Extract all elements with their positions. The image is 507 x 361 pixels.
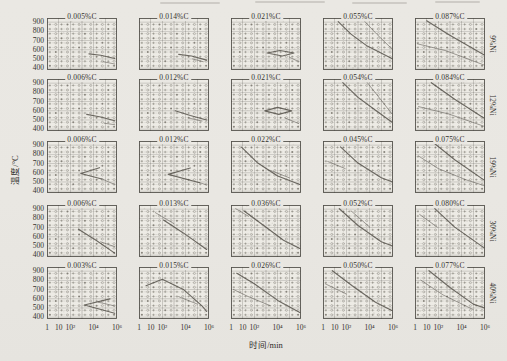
- carbon-content-label: 0.012%C: [157, 74, 191, 82]
- ni-row-label: 19%Ni: [488, 156, 497, 177]
- subplot-canvas: [415, 141, 485, 193]
- subplot-r3-c2: 0.012%C: [139, 141, 209, 193]
- subplot-r3-c5: 0.075%C: [415, 141, 485, 193]
- subplot-canvas: [231, 205, 301, 257]
- y-tick-label: 500: [22, 178, 44, 186]
- carbon-content-label: 0.006%C: [65, 136, 99, 144]
- x-tick-label: 10⁶: [296, 323, 306, 332]
- x-axis-label: 时间/min: [249, 338, 283, 350]
- subplot-canvas: [415, 79, 485, 131]
- x-tick-label: 1: [413, 323, 417, 332]
- x-tick-label: 1: [137, 323, 141, 332]
- y-tick-label: 600: [22, 169, 44, 177]
- subplot-canvas: [323, 18, 393, 70]
- plots-grid: 9008007006005004009%Ni0.005%C0.014%C0.02…: [0, 0, 507, 361]
- y-tick-label: 900: [22, 141, 44, 149]
- y-tick-label: 900: [22, 205, 44, 213]
- y-tick-label: 700: [22, 98, 44, 106]
- carbon-content-label: 0.022%C: [249, 136, 283, 144]
- y-tick-label: 900: [22, 18, 44, 26]
- y-axis-label: 温度/°C: [8, 155, 20, 184]
- subplot-r5-c3: 0.026%C: [231, 267, 301, 319]
- carbon-content-label: 0.075%C: [433, 136, 467, 144]
- subplot-r2-c5: 0.084%C: [415, 79, 485, 131]
- x-tick-label: 10²: [433, 323, 443, 332]
- carbon-content-label: 0.055%C: [341, 13, 375, 21]
- subplot-canvas: [47, 205, 117, 257]
- y-tick-label: 600: [22, 46, 44, 54]
- x-tick-label: 10⁴: [457, 323, 467, 332]
- subplot-canvas: [47, 79, 117, 131]
- subplot-canvas: [47, 267, 117, 319]
- subplot-r1-c4: 0.055%C: [323, 18, 393, 70]
- carbon-content-label: 0.005%C: [65, 13, 99, 21]
- y-tick-label: 800: [22, 27, 44, 35]
- x-tick-label: 10⁶: [388, 323, 398, 332]
- carbon-content-label: 0.012%C: [157, 136, 191, 144]
- y-tick-label: 800: [22, 276, 44, 284]
- subplot-canvas: [323, 141, 393, 193]
- subplot-r4-c1: 0.006%C: [47, 205, 117, 257]
- subplot-r5-c1: 0.003%C: [47, 267, 117, 319]
- subplot-r4-c2: 0.013%C: [139, 205, 209, 257]
- subplot-r3-c4: 0.045%C: [323, 141, 393, 193]
- subplot-r1-c5: 0.087%C: [415, 18, 485, 70]
- subplot-canvas: [323, 79, 393, 131]
- subplot-canvas: [139, 141, 209, 193]
- x-tick-label: 10⁶: [112, 323, 122, 332]
- subplot-canvas: [139, 267, 209, 319]
- y-tick-label: 500: [22, 116, 44, 124]
- subplot-canvas: [139, 18, 209, 70]
- subplot-r4-c5: 0.080%C: [415, 205, 485, 257]
- x-tick-label: 10: [239, 323, 247, 332]
- y-tick-label: 900: [22, 267, 44, 275]
- carbon-content-label: 0.014%C: [157, 13, 191, 21]
- x-tick-label: 10⁴: [89, 323, 99, 332]
- x-tick-label: 10⁶: [204, 323, 214, 332]
- y-tick-label: 700: [22, 37, 44, 45]
- x-tick-label: 10²: [157, 323, 167, 332]
- carbon-content-label: 0.006%C: [65, 200, 99, 208]
- carbon-content-label: 0.003%C: [65, 262, 99, 270]
- carbon-content-label: 0.021%C: [249, 13, 283, 21]
- carbon-content-label: 0.052%C: [341, 200, 375, 208]
- subplot-r1-c2: 0.014%C: [139, 18, 209, 70]
- x-tick-label: 10: [147, 323, 155, 332]
- y-tick-label: 700: [22, 160, 44, 168]
- x-tick-label: 10⁴: [181, 323, 191, 332]
- subplot-canvas: [323, 205, 393, 257]
- carbon-content-label: 0.015%C: [157, 262, 191, 270]
- subplot-canvas: [231, 267, 301, 319]
- subplot-canvas: [231, 141, 301, 193]
- subplot-r4-c4: 0.052%C: [323, 205, 393, 257]
- y-tick-label: 700: [22, 224, 44, 232]
- ni-row-label: 30%Ni: [488, 220, 497, 241]
- subplot-canvas: [415, 18, 485, 70]
- x-tick-label: 1: [321, 323, 325, 332]
- subplot-r1-c3: 0.021%C: [231, 18, 301, 70]
- carbon-content-label: 0.036%C: [249, 200, 283, 208]
- subplot-r2-c1: 0.006%C: [47, 79, 117, 131]
- x-tick-label: 10⁴: [365, 323, 375, 332]
- subplot-r2-c2: 0.012%C: [139, 79, 209, 131]
- ni-row-label: 40%Ni: [488, 282, 497, 303]
- subplot-canvas: [415, 205, 485, 257]
- y-tick-label: 400: [22, 125, 44, 133]
- carbon-content-label: 0.084%C: [433, 74, 467, 82]
- y-tick-label: 400: [22, 313, 44, 321]
- y-tick-label: 800: [22, 150, 44, 158]
- y-tick-label: 800: [22, 88, 44, 96]
- subplot-canvas: [139, 79, 209, 131]
- subplot-r5-c5: 0.077%C: [415, 267, 485, 319]
- x-tick-label: 10²: [249, 323, 259, 332]
- x-tick-label: 10: [331, 323, 339, 332]
- subplot-canvas: [323, 267, 393, 319]
- subplot-r3-c3: 0.022%C: [231, 141, 301, 193]
- x-tick-label: 10⁴: [273, 323, 283, 332]
- y-tick-label: 500: [22, 55, 44, 63]
- y-tick-label: 500: [22, 242, 44, 250]
- x-tick-label: 10⁶: [480, 323, 490, 332]
- x-tick-label: 1: [45, 323, 49, 332]
- carbon-content-label: 0.026%C: [249, 262, 283, 270]
- subplot-canvas: [231, 18, 301, 70]
